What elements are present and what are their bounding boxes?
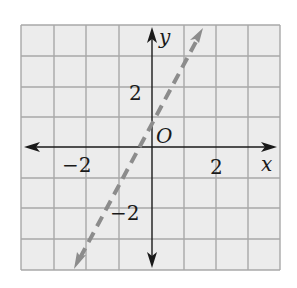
x-tick-neg2: −2 [62,155,91,175]
y-tick-neg2: −2 [110,203,139,223]
origin-label: O [156,126,172,146]
y-tick-pos2: 2 [129,83,142,103]
coordinate-plane [0,0,297,288]
x-tick-pos2: 2 [210,157,223,177]
x-axis-label: x [261,154,272,174]
y-axis-label: y [159,27,170,47]
